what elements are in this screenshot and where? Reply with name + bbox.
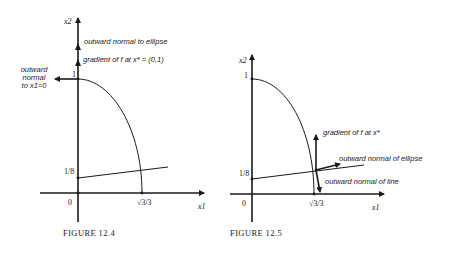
fig2-x2-axis-label: x2 [239,57,247,65]
fig1-annotation-gradient: gradient of f at x* = (0,1) [83,56,164,64]
ellipse-normal-arrowhead [75,43,81,50]
diagram-canvas [0,0,452,257]
fig1-y-intercept-label: 1/8 [64,168,74,176]
fig1-x1-axis-label: x1 [198,203,206,211]
fig2-caption: FIGURE 12.5 [230,228,282,238]
figure-12-4 [40,18,204,222]
fig1-origin-label: 0 [68,199,72,207]
fig2-origin-label: 0 [242,200,246,208]
fig1-x2-axis-label: x2 [64,18,72,26]
fig1-annotation-ellipse-normal: outward normal to ellipse [84,38,167,46]
constraint-line [78,167,168,178]
fig1-caption: FIGURE 12.4 [63,228,115,238]
line-normal-arrow [316,170,320,192]
fig2-annotation-line-normal: outward normal of line [325,178,399,186]
ellipse-curve [78,79,142,193]
fig2-x1-axis-label: x1 [372,204,380,212]
fig1-annotation-left-3: to x1=0 [14,82,54,90]
fig2-y-tick-1: 1 [244,72,248,80]
figure-12-5 [230,55,384,222]
gradient-arrowhead [75,59,81,66]
fig2-x-tick: √3/3 [309,200,324,208]
fig2-y-intercept-label: 1/8 [239,170,249,178]
fig2-annotation-gradient: gradient of f at x* [323,129,380,137]
fig1-x-tick: √3/3 [137,199,152,207]
fig1-y-tick-1: 1 [72,71,76,79]
ellipse-curve [252,79,314,194]
fig2-annotation-ellipse-normal: outward normal of ellipse [339,155,422,163]
